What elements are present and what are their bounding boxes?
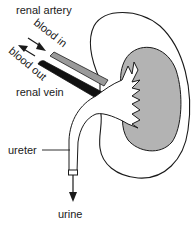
- ureter-tip: [69, 170, 78, 175]
- label-ureter: ureter: [8, 144, 37, 156]
- label-renal-artery: renal artery: [16, 4, 72, 16]
- kidney-diagram: renal artery blood in blood out renal ve…: [0, 0, 195, 228]
- label-renal-vein: renal vein: [16, 86, 64, 98]
- blood-in-arrow-icon: [36, 42, 46, 51]
- kidney-diagram-figure: renal artery blood in blood out renal ve…: [0, 0, 195, 228]
- label-urine: urine: [58, 208, 82, 220]
- urine-arrow-icon: [69, 192, 77, 202]
